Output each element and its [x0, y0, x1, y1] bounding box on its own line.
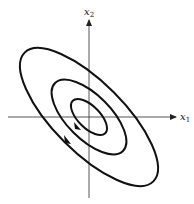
x1-axis-label: x1 [180, 111, 190, 124]
outer-contour-arrow-icon [64, 135, 71, 144]
phase-portrait-diagram: x2 x1 [0, 0, 194, 204]
x2-axis-label: x2 [84, 6, 94, 19]
